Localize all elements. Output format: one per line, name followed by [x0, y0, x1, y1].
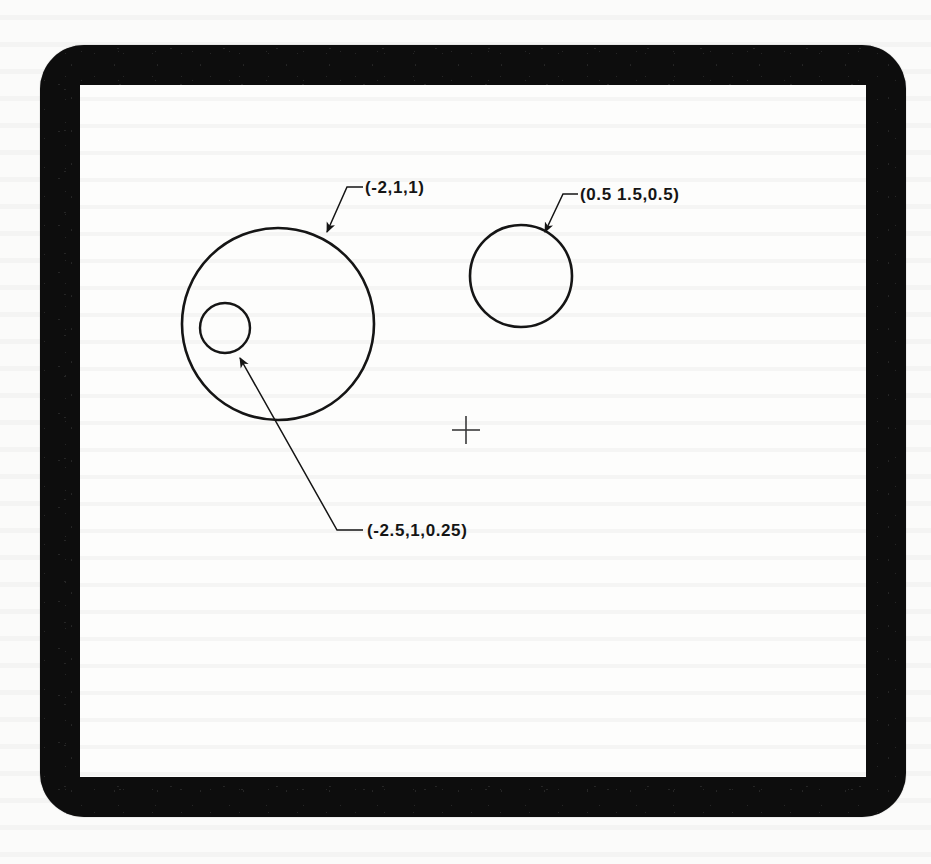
circle-large[interactable] [182, 228, 374, 420]
circle-right[interactable] [470, 225, 572, 327]
leader-line-circle-right [545, 194, 578, 232]
origin-crosshair [452, 416, 480, 444]
circle-small-inset[interactable] [200, 303, 250, 353]
label-circle-large: (-2,1,1) [365, 179, 425, 196]
leader-line-circle-large [327, 187, 363, 232]
vector-drawing-canvas [80, 85, 866, 777]
crt-display-screen[interactable]: (-2,1,1) (0.5 1.5,0.5) (-2.5,1,0.25) [80, 85, 866, 777]
label-circle-small-inset: (-2.5,1,0.25) [367, 522, 467, 539]
label-circle-right: (0.5 1.5,0.5) [580, 186, 679, 203]
leader-line-circle-small-inset [240, 358, 363, 530]
scanned-page: (-2,1,1) (0.5 1.5,0.5) (-2.5,1,0.25) [0, 0, 931, 864]
